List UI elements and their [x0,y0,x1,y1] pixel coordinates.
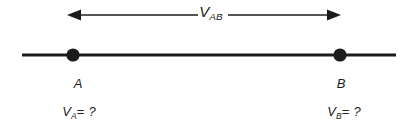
node-value-b: VB= ? [327,105,360,118]
node-label-a: A [74,77,83,90]
node-value-a: VA= ? [62,105,95,118]
vab-subscript: AB [209,11,222,22]
vb-symbol: V [327,104,336,119]
voltage-diagram-figure: VAB A B VA= ? VB= ? [0,0,419,129]
vab-symbol: V [199,3,209,20]
right-arrowhead-icon [327,10,341,21]
va-symbol: V [62,104,71,119]
left-arrowhead-icon [67,10,81,21]
va-subscript: A [71,111,77,121]
vb-subscript: B [336,111,342,121]
vb-unknown: ? [353,104,360,119]
node-dot-b [333,48,346,61]
node-label-b: B [337,77,346,90]
va-unknown: ? [88,104,95,119]
node-dot-a [66,48,79,61]
vb-operator: = [342,104,350,119]
arrow-label-vab: VAB [199,4,222,19]
va-operator: = [77,104,85,119]
